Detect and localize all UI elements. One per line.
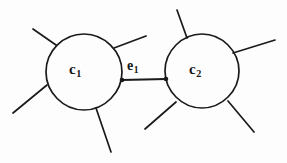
node-label-c1: c1 [69, 61, 81, 79]
stub-c2-lower-right [228, 101, 254, 132]
stub-c2-top [177, 10, 187, 38]
stub-c1-bottom [96, 108, 111, 152]
node-label-c2-base: c [189, 61, 196, 77]
stub-c1-left [13, 85, 47, 113]
edge-e1-line [122, 79, 166, 80]
edge-e1-endpoint-left [120, 78, 125, 83]
stub-group-c1 [13, 29, 146, 152]
node-label-c1-base: c [69, 61, 76, 77]
node-label-c1-subscript: 1 [76, 68, 82, 79]
edge-e1-endpoint-right [164, 77, 169, 82]
edge-label-e1-subscript: 1 [133, 65, 138, 75]
node-label-c2: c2 [189, 61, 201, 79]
node-circle-c1 [46, 34, 122, 110]
graph-diagram-figure: c1 c2 e1 [0, 0, 287, 163]
stub-c2-lower-left [145, 102, 176, 129]
node-circle-c2 [165, 34, 239, 108]
edge-label-e1: e1 [127, 58, 138, 75]
diagram-canvas [0, 0, 287, 163]
edge-e1-group [120, 77, 169, 83]
stub-c1-upper-right [114, 36, 146, 48]
stub-c1-upper-left [33, 29, 56, 45]
stub-c2-upper-right [233, 40, 275, 53]
node-label-c2-subscript: 2 [196, 68, 202, 79]
